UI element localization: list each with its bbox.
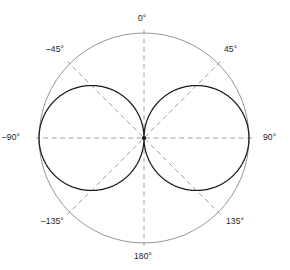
angle-label-135: 135° [226, 217, 244, 226]
angle-label-45: 45° [224, 45, 237, 54]
polar-plot-figure: 0° 45° –45° 90° –90° 135° –135° 180° [0, 0, 290, 270]
angle-label-n90: –90° [2, 133, 20, 142]
angle-label-0: 0° [138, 14, 146, 23]
angle-label-n135: –135° [41, 217, 64, 226]
angle-label-90: 90° [263, 133, 276, 142]
polar-plot-canvas [0, 0, 290, 270]
angle-label-n45: –45° [46, 45, 64, 54]
angle-label-180: 180° [134, 252, 152, 261]
origin-marker [142, 136, 146, 140]
